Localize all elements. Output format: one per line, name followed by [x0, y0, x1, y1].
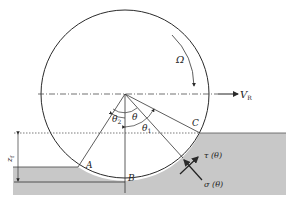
omega-label: Ω — [175, 54, 184, 65]
sinkage-label: zf — [5, 155, 15, 163]
diagram-canvas: Ω VR θ θ1 θ2 A B C zf τ (θ) σ (θ) — [0, 0, 295, 207]
wheel-terrain-diagram: Ω VR θ θ1 θ2 A B C zf τ (θ) σ (θ) — [0, 0, 295, 207]
velocity-label: VR — [240, 89, 252, 101]
shear-stress-label: τ (θ) — [204, 151, 222, 160]
point-a-label: A — [85, 160, 93, 170]
point-b-label: B — [127, 173, 135, 183]
point-c-label: C — [192, 118, 199, 128]
theta-label: θ — [132, 112, 138, 122]
normal-stress-label: σ (θ) — [204, 180, 223, 189]
